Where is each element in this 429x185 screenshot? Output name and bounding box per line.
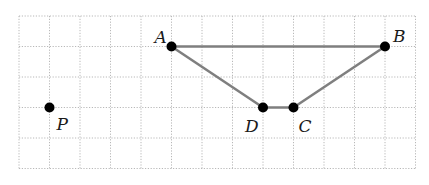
label-C: C	[299, 116, 312, 136]
label-P: P	[56, 114, 69, 134]
point-P	[45, 103, 55, 113]
label-D: D	[244, 116, 259, 136]
grid-diagram: ABCDP	[0, 0, 429, 185]
point-labels: ABCDP	[56, 26, 406, 136]
point-B	[380, 42, 390, 52]
point-A	[167, 42, 177, 52]
segment-BC	[294, 47, 386, 108]
point-C	[289, 103, 299, 113]
label-B: B	[392, 26, 406, 46]
point-D	[258, 103, 268, 113]
dotted-grid	[19, 16, 416, 169]
label-A: A	[153, 27, 167, 47]
